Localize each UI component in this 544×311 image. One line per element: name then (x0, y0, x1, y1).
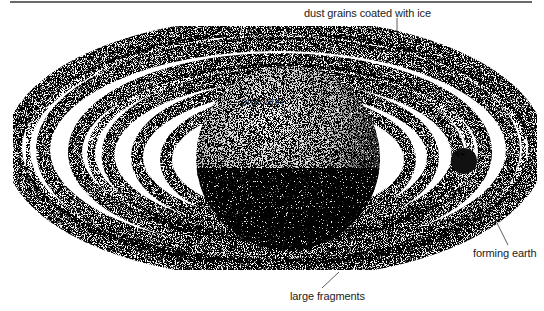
label-dust-grains: dust grains coated with ice (304, 7, 431, 19)
label-large-fragments: large fragments (290, 290, 365, 302)
label-protosun: protosun (241, 95, 283, 107)
label-forming-earth: forming earth (473, 247, 537, 259)
forming-earth-planet (451, 148, 477, 174)
protoplanetary-disk-illustration (0, 0, 544, 311)
